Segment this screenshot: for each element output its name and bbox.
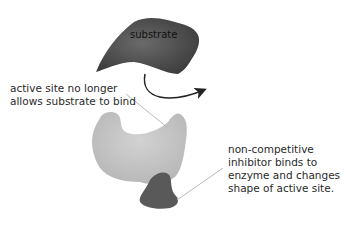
- inhibitor-line-1: non-competitive: [228, 143, 345, 156]
- active-site-line-2: allows substrate to bind: [10, 95, 170, 108]
- enzyme-shape: [92, 112, 187, 184]
- inhibitor-line-2: inhibitor binds to: [228, 156, 345, 169]
- inhibitor-annotation: non-competitive inhibitor binds to enzym…: [228, 143, 345, 195]
- active-site-annotation: active site no longer allows substrate t…: [10, 82, 170, 108]
- leader-line-inhibitor: [177, 168, 223, 200]
- inhibitor-line-3: enzyme and changes: [228, 169, 345, 182]
- substrate-label: substrate: [130, 29, 177, 40]
- inhibitor-line-4: shape of active site.: [228, 182, 345, 195]
- active-site-line-1: active site no longer: [10, 82, 170, 95]
- substrate-shape: substrate: [96, 18, 199, 74]
